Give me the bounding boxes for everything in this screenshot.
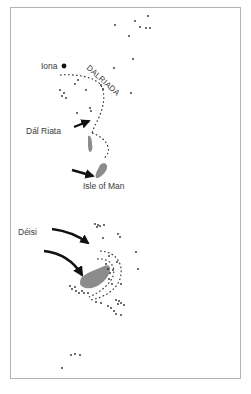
dalriada-boundary-south [92,133,109,158]
label-iona: Iona [41,62,58,71]
kintyre-land [88,136,92,152]
deisi-land [80,265,110,288]
arrow-deisi-upper-icon [52,229,88,243]
arrow-deisi-lower-icon [44,251,82,275]
label-deisi: Déisi [18,228,37,237]
iona-marker-icon [62,64,67,69]
arrow-isle-of-man-icon [72,170,93,176]
isle-of-man-land [96,163,108,178]
arrow-dal-riata-icon [74,121,89,127]
site-dots-south [61,223,139,369]
label-dal-riata: Dál Riata [26,127,61,136]
label-isle-of-man: Isle of Man [83,182,125,191]
map-canvas [0,0,251,394]
site-dots-north [59,15,151,114]
